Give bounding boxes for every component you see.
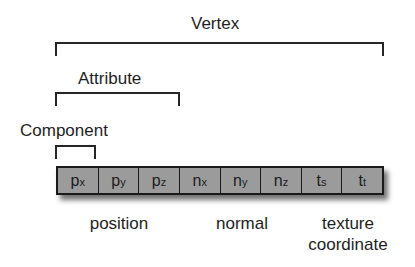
component-bracket [55, 145, 96, 159]
component-label: Component [20, 122, 108, 139]
cell-sub: y [120, 176, 126, 188]
cell-sub: z [161, 176, 167, 188]
vertex-label: Vertex [191, 15, 239, 32]
cell-base: n [233, 172, 242, 190]
cell-base: p [71, 172, 80, 190]
cell-sub: y [242, 176, 248, 188]
cell-base: n [192, 172, 201, 190]
cell-pz: pz [139, 168, 180, 193]
cell-ny: ny [221, 168, 262, 193]
cell-py: py [99, 168, 140, 193]
cell-base: p [152, 172, 161, 190]
cell-base: p [111, 172, 120, 190]
texture-label-line1: texture [293, 213, 403, 234]
cell-sub: z [283, 176, 289, 188]
cell-px: px [58, 168, 99, 193]
vertex-component-row: px py pz nx ny nz ts tt [56, 166, 384, 195]
cell-sub: s [321, 176, 327, 188]
texture-coordinate-group-label: texture coordinate [293, 213, 403, 255]
normal-group-label: normal [205, 213, 279, 234]
attribute-bracket [55, 92, 180, 106]
cell-nz: nz [261, 168, 302, 193]
cell-ts: ts [302, 168, 343, 193]
position-group-label: position [82, 213, 156, 234]
cell-nx: nx [180, 168, 221, 193]
attribute-label: Attribute [78, 70, 141, 87]
position-label: position [90, 214, 149, 233]
cell-tt: tt [342, 168, 382, 193]
cell-sub: x [201, 176, 207, 188]
cell-base: n [274, 172, 283, 190]
vertex-bracket [55, 42, 384, 56]
normal-label: normal [216, 214, 268, 233]
cell-sub: x [80, 176, 86, 188]
texture-label-line2: coordinate [293, 234, 403, 255]
cell-sub: t [363, 176, 366, 188]
